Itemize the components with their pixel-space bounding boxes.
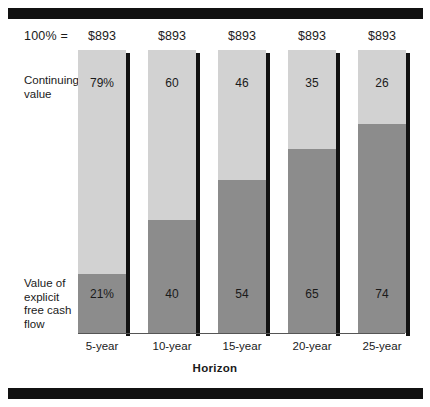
bar-group[interactable]: 4654 [218,50,266,333]
bar-segment-label: 46 [235,76,248,90]
bar-segment-label: 79% [90,76,114,90]
bar-total-value: $893 [358,29,406,43]
bar-segment-explicit-free-cash-flow[interactable]: 65 [288,149,336,333]
bar-total-value: $893 [218,29,266,43]
bar-total-value: $893 [288,29,336,43]
axis-tick-label: 5-year [67,340,137,352]
axis-title-horizon: Horizon [0,362,430,374]
bar-total-value: $893 [148,29,196,43]
bar-shadow [266,53,270,336]
bar-segment-explicit-free-cash-flow[interactable]: 74 [358,124,406,333]
axis-tick-label: 20-year [277,340,347,352]
bar-segment-label: 60 [165,76,178,90]
bar-segment-label: 54 [235,287,248,301]
bar-segment-label: 74 [375,287,388,301]
bar-segment-continuing-value[interactable]: 35 [288,50,336,149]
axis-baseline [78,333,405,334]
bar-shadow [126,53,130,336]
bar-segment-label: 21% [90,287,114,301]
bar-group[interactable]: 79%21% [78,50,126,333]
bar-shadow [196,53,200,336]
bar-segment-label: 40 [165,287,178,301]
bar-segment-label: 26 [375,76,388,90]
bar-segment-continuing-value[interactable]: 79% [78,50,126,274]
bar-segment-continuing-value[interactable]: 26 [358,50,406,124]
bar-group[interactable]: 3565 [288,50,336,333]
bar-segment-label: 35 [305,76,318,90]
bar-group[interactable]: 2674 [358,50,406,333]
bar-shadow [406,53,410,336]
bar-shadow [336,53,340,336]
axis-tick-label: 25-year [347,340,417,352]
bar-segment-continuing-value[interactable]: 60 [148,50,196,220]
axis-tick-label: 15-year [207,340,277,352]
bar-group[interactable]: 6040 [148,50,196,333]
bar-segment-explicit-free-cash-flow[interactable]: 54 [218,180,266,333]
axis-tick-label: 10-year [137,340,207,352]
bar-total-value: $893 [78,29,126,43]
bar-segment-explicit-free-cash-flow[interactable]: 21% [78,274,126,333]
bar-segment-label: 65 [305,287,318,301]
bar-segment-explicit-free-cash-flow[interactable]: 40 [148,220,196,333]
bar-segment-continuing-value[interactable]: 46 [218,50,266,180]
